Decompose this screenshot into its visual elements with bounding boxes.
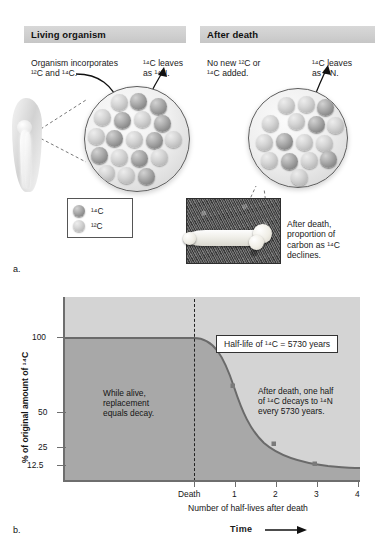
- time-arrow-icon: [263, 524, 309, 536]
- fossil-bone-photo: [186, 198, 281, 264]
- death-vertical-line: [194, 299, 195, 481]
- x-tick-label-4: 4: [355, 489, 360, 499]
- x-tick-1: [235, 480, 236, 487]
- arrowhead-c14-leaves-right: [322, 65, 331, 75]
- header-after-death-label: After death: [207, 29, 258, 40]
- legend-label-c12: ¹²C: [91, 221, 103, 231]
- half-life-callout: Half-life of ¹⁴C = 5730 years: [216, 335, 338, 353]
- x-axis-title: Number of half-lives after death: [188, 503, 308, 513]
- arrowhead-c14-leaves-left: [158, 67, 167, 77]
- arm-bone-illustration: [6, 96, 52, 194]
- after-death-note: After death, one half of ¹⁴C decays to ¹…: [258, 386, 368, 416]
- y-tick-label-50: 50: [38, 407, 47, 417]
- y-tick-12.5: [57, 465, 66, 466]
- legend-item-c14: ¹⁴C: [73, 203, 126, 218]
- x-tick-4: [358, 480, 359, 487]
- x-tick-death: [194, 480, 195, 487]
- x-tick-label-1: 1: [232, 489, 237, 499]
- legend-swatch-c14: [73, 205, 85, 217]
- time-axis-label: Time: [230, 524, 252, 534]
- y-tick-label-25: 25: [38, 442, 47, 452]
- panel-b-label: b.: [13, 525, 21, 535]
- panel-a-label: a.: [13, 264, 21, 274]
- marker-halflife-3: [313, 462, 318, 467]
- marker-halflife-2: [272, 442, 277, 447]
- x-tick-label-death: Death: [178, 489, 200, 499]
- annotation-no-new-carbon: No new ¹²C or ¹⁴C added.: [207, 58, 289, 79]
- x-axis-line: [63, 480, 360, 482]
- header-after-death: After death: [200, 26, 375, 43]
- y-tick-50: [57, 412, 66, 413]
- y-tick-100: [57, 337, 66, 338]
- x-tick-3: [317, 480, 318, 487]
- x-tick-label-2: 2: [273, 489, 278, 499]
- x-tick-2: [276, 480, 277, 487]
- after-death-atom-circle: [248, 88, 348, 188]
- header-living-organism-label: Living organism: [31, 29, 106, 40]
- while-alive-note: While alive, replacement equals decay.: [103, 388, 189, 418]
- y-axis-title: % of original amount of ¹⁴C: [20, 352, 30, 463]
- y-tick-label-100: 100: [32, 332, 46, 342]
- legend-item-c12: ¹²C: [73, 218, 126, 233]
- legend-label-c14: ¹⁴C: [91, 206, 103, 216]
- y-axis-line: [63, 297, 65, 481]
- y-tick-25: [57, 447, 66, 448]
- x-tick-label-3: 3: [314, 489, 319, 499]
- living-organism-atom-circle: [84, 86, 190, 192]
- marker-halflife-1: [231, 384, 236, 389]
- header-living-organism: Living organism: [24, 26, 186, 43]
- carbon-legend: ¹⁴C ¹²C: [67, 198, 133, 238]
- legend-swatch-c12: [73, 220, 85, 232]
- annotation-after-death-caption: After death, proportion of carbon as ¹⁴C…: [287, 219, 382, 261]
